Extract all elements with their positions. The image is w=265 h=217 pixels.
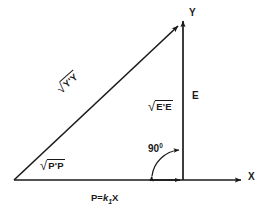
equation-lhs: P= (91, 192, 103, 203)
sqrt-pp-label: √P'P (40, 159, 65, 172)
figure-canvas: Y X E √E'E √P'P √Y'Y 900 P=k1X (0, 0, 265, 217)
radical-sign-ee: √ (148, 100, 155, 113)
angle-value: 90 (148, 143, 159, 154)
radical-ee: √E'E (148, 100, 173, 113)
x-axis-label: X (248, 172, 255, 182)
radical-pp: √P'P (40, 159, 65, 172)
radical-sign-pp: √ (40, 159, 47, 172)
projection-equation: P=k1X (91, 193, 118, 205)
residual-e-label: E (192, 91, 199, 101)
right-angle-label: 900 (148, 143, 163, 154)
y-axis-label: Y (189, 8, 196, 18)
diagram-svg (0, 0, 265, 217)
sqrt-ee-label: √E'E (148, 100, 173, 113)
radicand-pp: P'P (47, 159, 65, 171)
radicand-ee: E'E (155, 100, 173, 112)
degree-symbol: 0 (159, 142, 163, 149)
equation-rhs: X (112, 192, 118, 203)
